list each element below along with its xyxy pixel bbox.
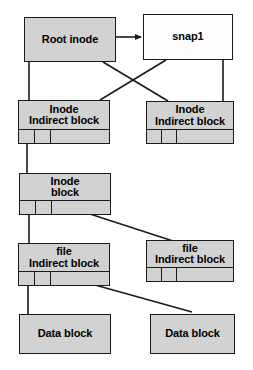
file-indirect-block-left-node-label-line1: file [56,246,72,258]
inode-indirect-block-right-node-pointer-cell-1[interactable] [147,130,162,143]
file-indirect-block-right-node-pointer-cell-3[interactable] [177,268,233,281]
inode-indirect-block-right-node-label-line1: Inode [176,104,205,116]
data-block-left-node-label-line1: Data block [38,328,93,340]
file-indirect-block-left-node-pointer-cell-3[interactable] [51,272,109,285]
file-indirect-block-right-node-label-line2: Indirect block [155,254,225,266]
file-indirect-block-left-node-pointer-cell-1[interactable] [19,272,35,285]
file-indirect-block-right-node[interactable]: fileIndirect block [146,240,234,282]
inode-block-node-pointer-cell-2[interactable] [36,201,52,214]
file-indirect-block-right-node-label: fileIndirect block [147,241,233,267]
inode-indirect-block-right-node-pointer-cells [147,129,233,143]
inode-indirect-block-right-node-pointer-cell-3[interactable] [177,130,233,143]
file-indirect-block-left-node-label: fileIndirect block [19,244,109,271]
data-block-left-node-label: Data block [20,315,110,353]
inode-indirect-block-left-node-label: InodeIndirect block [19,101,109,129]
data-block-right-node-label-line1: Data block [165,328,220,340]
edge-snap1-to-inode-indirect-left [100,60,166,100]
data-block-right-node[interactable]: Data block [150,314,235,354]
edge-root-inode-to-inode-indirect-right [103,62,168,101]
file-indirect-block-left-node-pointer-cell-2[interactable] [35,272,51,285]
inode-block-node-pointer-cell-3[interactable] [52,201,110,214]
inode-block-node-label-line2: block [51,187,79,199]
inode-indirect-block-left-node-pointer-cell-1[interactable] [19,130,35,143]
inode-indirect-block-left-node-pointer-cell-2[interactable] [35,130,51,143]
file-indirect-block-right-node-pointer-cells [147,267,233,281]
file-indirect-block-left-node-pointer-cells [19,271,109,285]
file-indirect-block-left-node-label-line2: Indirect block [29,258,99,270]
root-inode-node[interactable]: Root inode [24,17,116,62]
inode-indirect-block-right-node[interactable]: InodeIndirect block [146,101,234,144]
inode-block-node[interactable]: Inodeblock [19,173,111,215]
root-inode-node-label-line1: Root inode [42,34,98,46]
file-indirect-block-left-node[interactable]: fileIndirect block [18,243,110,286]
inode-indirect-block-left-node[interactable]: InodeIndirect block [18,100,110,144]
inode-block-node-pointer-cells [20,200,110,214]
snap1-node-label-line1: snap1 [172,31,203,43]
diagram-canvas: Root inodesnap1InodeIndirect blockInodeI… [0,0,253,370]
inode-indirect-block-right-node-label: InodeIndirect block [147,102,233,129]
snap1-node-label: snap1 [144,15,232,59]
inode-indirect-block-left-node-label-line2: Indirect block [29,115,99,127]
data-block-right-node-label: Data block [151,315,234,353]
inode-block-node-pointer-cell-1[interactable] [20,201,36,214]
snap1-node[interactable]: snap1 [143,14,233,60]
inode-indirect-block-right-node-label-line2: Indirect block [155,116,225,128]
file-indirect-block-right-node-pointer-cell-2[interactable] [162,268,177,281]
inode-indirect-block-left-node-pointer-cell-3[interactable] [51,130,109,143]
inode-block-node-label: Inodeblock [20,174,110,200]
file-indirect-block-right-node-pointer-cell-1[interactable] [147,268,162,281]
inode-indirect-block-right-node-pointer-cell-2[interactable] [162,130,177,143]
root-inode-node-label: Root inode [25,18,115,61]
data-block-left-node[interactable]: Data block [19,314,111,354]
inode-indirect-block-left-node-pointer-cells [19,129,109,143]
